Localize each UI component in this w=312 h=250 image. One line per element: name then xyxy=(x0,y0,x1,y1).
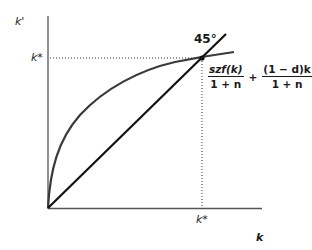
x-tick-kstar-label: k* xyxy=(196,214,208,225)
angle-45-label: 45° xyxy=(194,33,217,45)
term1-numerator: szf(k) xyxy=(208,63,244,77)
term2-denominator: 1 + n xyxy=(272,77,303,90)
term1-denominator: 1 + n xyxy=(210,77,241,90)
diagram-canvas xyxy=(0,0,312,250)
x-axis-label: k xyxy=(256,232,263,243)
formula-term2: (1 − d)k 1 + n xyxy=(262,63,312,90)
plus-operator: + xyxy=(249,71,258,83)
steady-state-point xyxy=(199,55,204,60)
formula-term1: szf(k) 1 + n xyxy=(208,63,244,90)
transition-formula: szf(k) 1 + n + (1 − d)k 1 + n xyxy=(208,63,312,90)
term2-numerator: (1 − d)k xyxy=(262,63,312,77)
y-axis-label: k' xyxy=(15,16,24,27)
transition-curve xyxy=(48,52,234,208)
y-tick-kstar-label: k* xyxy=(31,52,43,63)
